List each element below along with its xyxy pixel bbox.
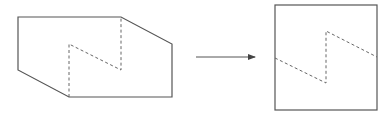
left-figure-outline xyxy=(18,17,172,97)
left-figure xyxy=(18,17,172,97)
diagram-svg xyxy=(0,0,392,121)
right-figure-square xyxy=(275,5,377,110)
right-figure-fold-line xyxy=(275,31,377,83)
diagram-canvas xyxy=(0,0,392,121)
right-figure xyxy=(275,5,377,110)
left-figure-fold-line xyxy=(69,17,121,97)
